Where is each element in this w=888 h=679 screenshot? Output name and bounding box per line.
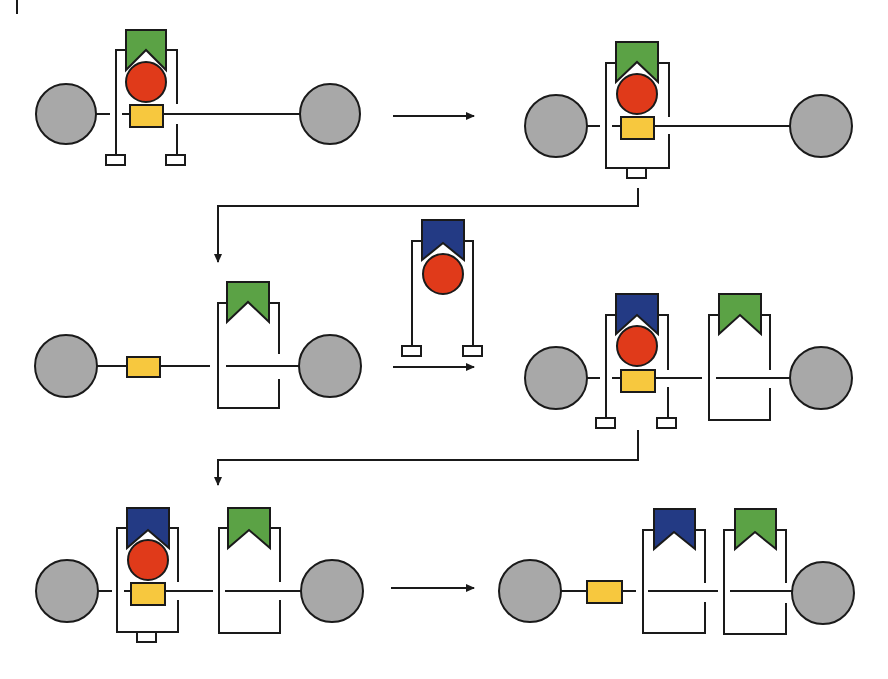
panel-row2-right bbox=[525, 294, 852, 428]
gray-node-right bbox=[790, 95, 852, 157]
foot bbox=[166, 155, 185, 165]
foot bbox=[106, 155, 125, 165]
yellow-block bbox=[621, 370, 655, 392]
gray-node-right bbox=[300, 84, 360, 144]
panel-row1-left bbox=[36, 30, 360, 165]
gray-node-right bbox=[299, 335, 361, 397]
red-ball bbox=[617, 326, 657, 366]
green-cap bbox=[228, 508, 270, 548]
gray-node-left bbox=[499, 560, 561, 622]
foot bbox=[627, 168, 646, 178]
foot bbox=[402, 346, 421, 356]
green-cap bbox=[735, 509, 776, 549]
gray-node-left bbox=[36, 560, 98, 622]
panel-row1-right bbox=[525, 42, 852, 178]
gray-node-right bbox=[790, 347, 852, 409]
yellow-block bbox=[127, 357, 160, 377]
arrow-elbow bbox=[218, 430, 638, 485]
blue-cap bbox=[654, 509, 695, 549]
foot bbox=[657, 418, 676, 428]
red-ball bbox=[128, 540, 168, 580]
green-cap bbox=[719, 294, 761, 334]
gray-node-left bbox=[525, 347, 587, 409]
yellow-block bbox=[621, 117, 654, 139]
panel-row3-left bbox=[36, 508, 363, 642]
red-ball bbox=[617, 74, 657, 114]
red-ball bbox=[126, 62, 166, 102]
panel-row3-right bbox=[499, 509, 854, 634]
yellow-block bbox=[130, 105, 163, 127]
gray-node-right bbox=[792, 562, 854, 624]
foot bbox=[463, 346, 482, 356]
panel-row2-left bbox=[35, 282, 361, 408]
diagram-canvas bbox=[0, 0, 888, 679]
yellow-block bbox=[587, 581, 622, 603]
gray-node-left bbox=[525, 95, 587, 157]
foot bbox=[596, 418, 615, 428]
gray-node-left bbox=[36, 84, 96, 144]
gray-node-right bbox=[301, 560, 363, 622]
panel-row2-middle bbox=[402, 220, 482, 356]
green-cap bbox=[227, 282, 269, 322]
yellow-block bbox=[131, 583, 165, 605]
gray-node-left bbox=[35, 335, 97, 397]
foot bbox=[137, 632, 156, 642]
red-ball bbox=[423, 254, 463, 294]
